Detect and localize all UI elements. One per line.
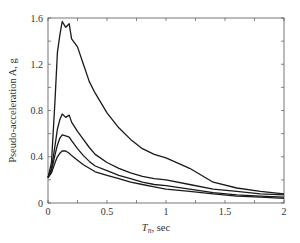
- y-tick-label: 1.2: [31, 59, 44, 70]
- x-axis-title: Tn, sec: [142, 222, 171, 235]
- series-line-1: [48, 22, 284, 194]
- data-series: [48, 22, 284, 199]
- x-tick-label: 2: [282, 206, 287, 217]
- x-tick-label: 1: [164, 206, 169, 217]
- series-line-2: [48, 114, 284, 195]
- x-axis-title-unit: , sec: [151, 222, 170, 233]
- y-tick-label: 0.8: [31, 105, 44, 116]
- x-tick-label: 0: [46, 206, 51, 217]
- chart-container: 00.511.5200.40.81.21.6 Pseudo-accelerati…: [0, 0, 300, 243]
- x-tick-label: 0.5: [101, 206, 114, 217]
- y-tick-label: 0: [38, 198, 43, 209]
- x-tick-label: 1.5: [219, 206, 232, 217]
- response-spectrum-chart: 00.511.5200.40.81.21.6 Pseudo-accelerati…: [0, 0, 300, 243]
- axis-ticks: [48, 18, 284, 203]
- series-line-3: [48, 135, 284, 197]
- y-axis-title: Pseudo-acceleration A, g: [7, 57, 18, 162]
- plot-frame: [48, 18, 284, 203]
- y-tick-label: 0.4: [31, 151, 44, 162]
- y-tick-label: 1.6: [31, 13, 44, 24]
